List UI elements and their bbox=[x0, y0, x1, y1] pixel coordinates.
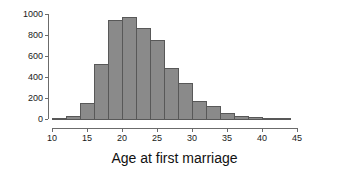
histogram-chart: 02004006008001000 1015202530354045 Age a… bbox=[0, 0, 338, 171]
histogram-bar bbox=[52, 118, 66, 119]
histogram-bar bbox=[122, 18, 136, 119]
histogram-bar bbox=[248, 117, 262, 119]
histogram-bar bbox=[136, 29, 150, 119]
x-tick-label: 10 bbox=[47, 133, 57, 143]
histogram-bar bbox=[234, 116, 248, 119]
histogram-bar bbox=[164, 69, 178, 119]
x-axis-title: Age at first marriage bbox=[111, 150, 237, 166]
y-tick-label: 400 bbox=[28, 72, 43, 82]
histogram-bar bbox=[192, 102, 206, 119]
histogram-bar bbox=[108, 21, 122, 119]
x-tick-label: 40 bbox=[257, 133, 267, 143]
x-tick-label: 35 bbox=[222, 133, 232, 143]
histogram-bar bbox=[80, 103, 94, 119]
y-axis: 02004006008001000 bbox=[23, 9, 48, 124]
histogram-bar bbox=[262, 118, 276, 119]
histogram-bar bbox=[66, 116, 80, 119]
x-tick-label: 20 bbox=[117, 133, 127, 143]
x-tick-label: 25 bbox=[152, 133, 162, 143]
x-tick-label: 45 bbox=[292, 133, 302, 143]
y-tick-label: 1000 bbox=[23, 9, 43, 19]
histogram-bar bbox=[178, 83, 192, 119]
x-tick-label: 15 bbox=[82, 133, 92, 143]
histogram-bar bbox=[220, 114, 234, 119]
y-tick-label: 800 bbox=[28, 30, 43, 40]
x-tick-label: 30 bbox=[187, 133, 197, 143]
y-tick-label: 0 bbox=[38, 114, 43, 124]
y-tick-label: 600 bbox=[28, 51, 43, 61]
histogram-bar bbox=[150, 40, 164, 119]
x-axis: 1015202530354045 bbox=[47, 128, 302, 143]
histogram-bars bbox=[52, 18, 290, 119]
y-tick-label: 200 bbox=[28, 93, 43, 103]
plot-area: 02004006008001000 1015202530354045 Age a… bbox=[0, 0, 338, 171]
histogram-bar bbox=[276, 118, 290, 119]
histogram-bar bbox=[94, 64, 108, 119]
histogram-bar bbox=[206, 107, 220, 119]
